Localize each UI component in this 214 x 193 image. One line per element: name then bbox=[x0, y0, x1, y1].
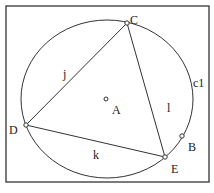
segment-l bbox=[127, 23, 165, 157]
point-b[interactable] bbox=[180, 134, 184, 138]
point-c[interactable] bbox=[125, 21, 129, 25]
point-d[interactable] bbox=[24, 123, 28, 127]
label-b: B bbox=[188, 140, 196, 154]
frame-border bbox=[6, 6, 209, 182]
geometry-figure: C D E B A c1 j k l bbox=[0, 0, 214, 193]
label-c1: c1 bbox=[193, 76, 204, 90]
label-k: k bbox=[93, 148, 99, 162]
label-e: E bbox=[171, 162, 178, 176]
label-c: C bbox=[130, 13, 138, 27]
label-l: l bbox=[167, 101, 171, 115]
label-j: j bbox=[62, 67, 66, 81]
label-a: A bbox=[112, 103, 121, 117]
point-a[interactable] bbox=[104, 97, 108, 101]
label-d: D bbox=[9, 123, 18, 137]
point-e[interactable] bbox=[163, 155, 167, 159]
